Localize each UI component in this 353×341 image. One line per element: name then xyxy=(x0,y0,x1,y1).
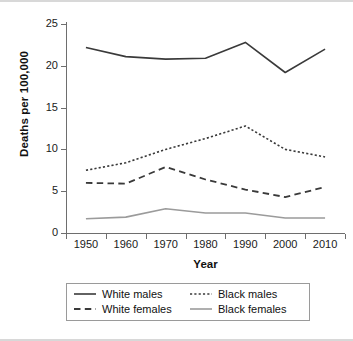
y-tick-label: 20 xyxy=(34,60,58,71)
y-tick-label-group: 0510152025 xyxy=(30,2,58,341)
x-tick-label: 1960 xyxy=(106,238,146,250)
x-axis-title: Year xyxy=(66,258,345,270)
plot-area xyxy=(68,24,344,233)
series-line-black-females xyxy=(86,209,325,219)
legend-label: White females xyxy=(102,303,172,315)
chart-legend: White malesBlack malesWhite femalesBlack… xyxy=(66,283,310,321)
series-line-white-females xyxy=(86,167,325,197)
legend-label: White males xyxy=(102,288,163,300)
legend-swatch-dotted-icon xyxy=(189,289,213,299)
x-tick-mark xyxy=(345,234,346,239)
y-tick-label: 10 xyxy=(34,143,58,154)
y-axis-line xyxy=(66,22,67,235)
figure-container: Deaths per 100,000 0510152025 1950196019… xyxy=(0,0,353,341)
legend-swatch-solid-icon xyxy=(73,289,97,299)
x-tick-label: 1970 xyxy=(146,238,186,250)
series-line-black-males xyxy=(86,126,325,170)
x-tick-label: 2000 xyxy=(265,238,305,250)
y-tick-mark xyxy=(61,66,66,67)
series-line-white-males xyxy=(86,42,325,72)
y-tick-label: 0 xyxy=(34,227,58,238)
y-tick-mark xyxy=(61,191,66,192)
y-tick-label: 15 xyxy=(34,102,58,113)
y-tick-mark xyxy=(61,108,66,109)
y-axis-title: Deaths per 100,000 xyxy=(18,34,30,174)
x-tick-label: 1950 xyxy=(66,238,106,250)
legend-item-white-females[interactable]: White females xyxy=(73,303,187,315)
legend-label: Black females xyxy=(218,303,286,315)
series-canvas xyxy=(68,24,344,233)
legend-item-black-females[interactable]: Black females xyxy=(189,303,303,315)
x-axis-line xyxy=(66,233,345,234)
y-tick-label: 25 xyxy=(34,18,58,29)
y-tick-mark xyxy=(61,24,66,25)
legend-item-black-males[interactable]: Black males xyxy=(189,288,303,300)
x-tick-label: 1980 xyxy=(186,238,226,250)
legend-item-white-males[interactable]: White males xyxy=(73,288,187,300)
y-tick-label: 5 xyxy=(34,185,58,196)
legend-swatch-dashed-icon xyxy=(73,304,97,314)
x-tick-label: 1990 xyxy=(225,238,265,250)
legend-label: Black males xyxy=(218,288,277,300)
y-tick-mark xyxy=(61,149,66,150)
x-tick-label: 2010 xyxy=(305,238,345,250)
legend-swatch-solid-icon xyxy=(189,304,213,314)
